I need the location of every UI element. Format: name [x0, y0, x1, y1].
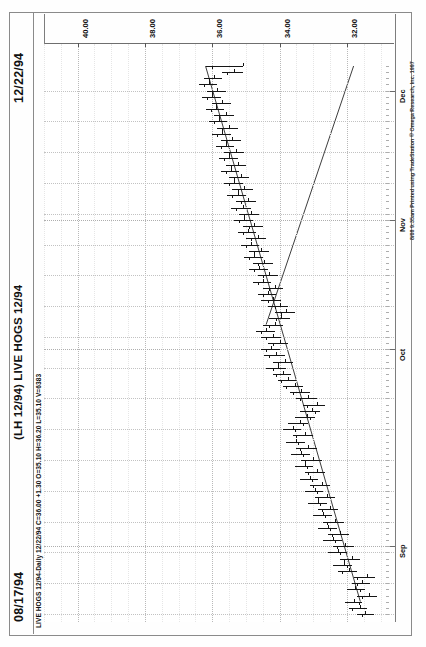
ohlc-close-tick: [219, 115, 220, 118]
ohlc-open-tick: [335, 519, 336, 522]
ohlc-close-tick: [263, 275, 264, 278]
time-minor-tick: [386, 454, 389, 455]
time-minor-tick: [386, 91, 389, 92]
ohlc-close-tick: [360, 589, 361, 592]
price-tick-label: 34.00: [283, 19, 292, 38]
time-minor-tick: [386, 158, 389, 159]
time-minor-tick: [386, 97, 389, 98]
time-minor-tick: [386, 226, 389, 227]
ohlc-bar: [234, 220, 253, 221]
ohlc-open-tick: [354, 599, 355, 602]
price-minor-gridline: [162, 44, 163, 622]
ohlc-open-tick: [268, 291, 269, 294]
time-minor-tick: [386, 66, 389, 67]
ohlc-open-tick: [365, 611, 366, 614]
ohlc-close-tick: [281, 312, 282, 315]
ohlc-close-tick: [209, 78, 210, 81]
ohlc-open-tick: [266, 328, 267, 331]
time-minor-tick: [386, 189, 389, 190]
time-minor-tick: [386, 115, 389, 116]
time-minor-tick: [386, 331, 389, 332]
time-minor-tick: [386, 140, 389, 141]
price-gridline: [280, 44, 281, 622]
ohlc-close-tick: [254, 269, 255, 272]
ohlc-bar: [266, 368, 286, 369]
ohlc-close-tick: [278, 362, 279, 365]
ohlc-bar: [295, 417, 315, 418]
copyright-footer: 8/08 9:35am Printed using TradeStation ©…: [409, 61, 415, 240]
ohlc-close-tick: [296, 435, 297, 438]
ohlc-close-tick: [226, 140, 227, 143]
ohlc-open-tick: [276, 352, 277, 355]
price-gridline: [347, 44, 348, 622]
ohlc-close-tick: [229, 152, 230, 155]
price-chart-plot[interactable]: [44, 44, 394, 622]
time-minor-tick: [386, 171, 389, 172]
ohlc-close-tick: [303, 423, 304, 426]
time-minor-tick: [386, 257, 389, 258]
ohlc-close-tick: [241, 201, 242, 204]
price-minor-gridline: [179, 44, 180, 622]
week-gridline: [44, 429, 394, 430]
ohlc-close-tick: [239, 220, 240, 223]
price-minor-gridline: [128, 44, 129, 622]
ohlc-close-tick: [258, 263, 259, 266]
ohlc-close-tick: [347, 565, 348, 568]
ohlc-bar: [263, 288, 283, 289]
ohlc-bar: [238, 232, 257, 233]
ohlc-open-tick: [234, 69, 235, 72]
time-minor-tick: [386, 312, 389, 313]
ohlc-bar: [209, 121, 228, 122]
ohlc-bar: [263, 325, 283, 326]
time-minor-tick: [386, 411, 389, 412]
ohlc-open-tick: [308, 445, 309, 448]
ohlc-open-tick: [259, 266, 260, 269]
ohlc-bar: [243, 226, 263, 227]
ohlc-open-tick: [317, 469, 318, 472]
ohlc-close-tick: [266, 349, 267, 352]
ohlc-bar: [206, 109, 225, 110]
time-minor-tick: [386, 522, 389, 523]
time-minor-tick: [386, 392, 389, 393]
time-minor-tick: [386, 405, 389, 406]
ohlc-open-tick: [317, 402, 318, 405]
time-minor-tick: [386, 398, 389, 399]
ohlc-bar: [232, 189, 252, 190]
ohlc-open-tick: [264, 260, 265, 263]
time-minor-tick: [386, 238, 389, 239]
price-tick-label: 40.00: [81, 19, 90, 38]
time-minor-tick: [386, 121, 389, 122]
time-minor-tick: [386, 72, 389, 73]
ohlc-open-tick: [307, 414, 308, 417]
ohlc-close-tick: [352, 608, 353, 611]
ohlc-bar: [224, 152, 244, 153]
start-date-label: 08/17/94: [12, 572, 26, 622]
ohlc-close-tick: [226, 171, 227, 174]
ohlc-bar: [308, 503, 327, 504]
week-gridline: [44, 491, 394, 492]
time-minor-tick: [386, 503, 389, 504]
ohlc-bar: [236, 201, 256, 202]
ohlc-open-tick: [232, 137, 233, 140]
time-minor-tick: [386, 386, 389, 387]
ohlc-bar: [268, 343, 288, 344]
week-gridline: [44, 306, 394, 307]
ohlc-open-tick: [243, 63, 244, 66]
ohlc-bar: [258, 294, 277, 295]
ohlc-open-tick: [222, 100, 223, 103]
ohlc-open-tick: [275, 285, 276, 288]
time-minor-tick: [386, 509, 389, 510]
price-minor-gridline: [111, 44, 112, 622]
ohlc-close-tick: [307, 466, 308, 469]
ohlc-close-tick: [318, 497, 319, 500]
month-tick-label: Nov: [398, 218, 407, 232]
ohlc-close-tick: [227, 72, 228, 75]
ohlc-open-tick: [251, 211, 252, 214]
ohlc-open-tick: [367, 574, 368, 577]
ohlc-open-tick: [340, 531, 341, 534]
ohlc-open-tick: [273, 297, 274, 300]
price-tick-label: 36.00: [215, 19, 224, 38]
time-minor-tick: [386, 577, 389, 578]
time-minor-tick: [386, 435, 389, 436]
ohlc-open-tick: [330, 506, 331, 509]
